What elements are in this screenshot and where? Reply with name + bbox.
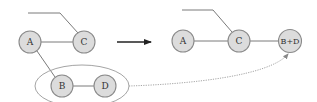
node-c-left: C xyxy=(73,31,95,53)
graph-contraction-diagram: A C B D A xyxy=(0,0,317,102)
edge-a-b-left xyxy=(37,51,55,77)
node-label: B+D xyxy=(281,37,300,46)
node-b-left: B xyxy=(51,75,73,97)
node-label: C xyxy=(236,36,243,46)
edge-external-to-c-left xyxy=(28,13,78,33)
node-a-right: A xyxy=(172,30,194,52)
edge-external-to-c-right xyxy=(182,10,232,32)
node-bd-merged: B+D xyxy=(279,30,302,53)
node-label: A xyxy=(26,37,34,47)
node-label: C xyxy=(81,37,88,47)
node-d-left: D xyxy=(94,75,116,97)
right-graph: A C B+D xyxy=(172,10,302,53)
node-c-right: C xyxy=(228,30,250,52)
node-label: A xyxy=(179,36,187,46)
left-graph: A C B D xyxy=(19,13,129,102)
node-label: B xyxy=(59,81,66,91)
merge-link-curve xyxy=(129,54,288,86)
node-label: D xyxy=(101,81,108,91)
node-a-left: A xyxy=(19,31,41,53)
